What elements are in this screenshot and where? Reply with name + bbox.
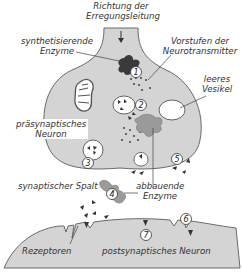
mitochondrion-icon bbox=[75, 80, 93, 111]
step-6-marker: 6 bbox=[181, 214, 192, 225]
svg-text:4: 4 bbox=[109, 190, 114, 199]
cleft-transmitters bbox=[80, 200, 109, 219]
synaptic-cleft-label: synaptischer Spalt bbox=[18, 181, 98, 191]
postsynaptic-neuron-label: postsynaptisches Neuron bbox=[102, 246, 211, 256]
empty-vesicle-label: leeres Vesikel bbox=[196, 74, 238, 94]
svg-text:5: 5 bbox=[174, 155, 179, 164]
step-2-marker: 2 bbox=[136, 100, 147, 111]
postsynaptic-neuron-shape bbox=[4, 219, 240, 268]
step-7-marker: 7 bbox=[141, 230, 152, 241]
empty-vesicle bbox=[159, 100, 185, 120]
presynaptic-neuron-label: präsynaptisches Neuron bbox=[14, 119, 88, 139]
precursors-label: Vorstufen der Neurotransmitter bbox=[160, 36, 240, 56]
direction-label: Richtung der Erregungsleitung bbox=[86, 1, 156, 21]
svg-text:2: 2 bbox=[138, 101, 143, 110]
svg-text:1: 1 bbox=[133, 68, 138, 77]
step-4-marker: 4 bbox=[107, 189, 118, 200]
fusing-vesicle bbox=[83, 140, 103, 160]
svg-text:3: 3 bbox=[85, 159, 90, 168]
receptors-label: Rezeptoren bbox=[22, 246, 71, 256]
step-3-marker: 3 bbox=[83, 158, 94, 169]
svg-text:6: 6 bbox=[183, 215, 188, 224]
step-5-marker: 5 bbox=[172, 154, 183, 165]
step-1-marker: 1 bbox=[131, 67, 142, 78]
degrading-enzymes-label: abbauende Enzyme bbox=[136, 181, 184, 201]
synthesizing-enzymes-label: synthetisierende Enzyme bbox=[20, 36, 94, 56]
